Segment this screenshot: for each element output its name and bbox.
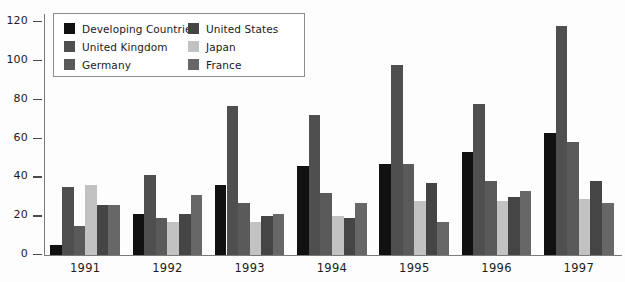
x-axis-label-1991: 1991 bbox=[44, 261, 126, 275]
y-axis-tick-label: 20 bbox=[14, 208, 28, 221]
bar bbox=[473, 104, 485, 255]
y-axis-tick-label: 60 bbox=[14, 131, 28, 144]
bar bbox=[332, 216, 344, 255]
legend-swatch-icon bbox=[188, 59, 199, 70]
y-axis-tick-label: 80 bbox=[14, 92, 28, 105]
bar bbox=[426, 183, 438, 255]
bar-group-1997 bbox=[538, 8, 620, 255]
bar bbox=[97, 205, 109, 255]
legend-item[interactable]: Developing Countries bbox=[64, 20, 197, 37]
bar bbox=[250, 222, 262, 255]
y-axis-tick-label: 120 bbox=[6, 14, 28, 27]
y-axis-tick-mark bbox=[33, 176, 42, 177]
legend-item[interactable]: Japan bbox=[188, 38, 278, 55]
x-axis-label-1993: 1993 bbox=[209, 261, 291, 275]
bar bbox=[227, 106, 239, 256]
legend-swatch-icon bbox=[188, 41, 199, 52]
bar bbox=[567, 142, 579, 255]
bar bbox=[215, 185, 227, 255]
legend-label: Japan bbox=[206, 41, 236, 53]
bar bbox=[579, 199, 591, 255]
x-axis-label-1992: 1992 bbox=[126, 261, 208, 275]
y-axis-tick-mark bbox=[33, 21, 42, 22]
y-axis-tick-label: 40 bbox=[14, 169, 28, 182]
y-axis-tick-mark bbox=[33, 99, 42, 100]
legend-item[interactable]: France bbox=[188, 56, 278, 73]
bar bbox=[261, 216, 273, 255]
bar bbox=[403, 164, 415, 255]
bar bbox=[179, 214, 191, 255]
x-axis-label-1996: 1996 bbox=[455, 261, 537, 275]
bar bbox=[133, 214, 145, 255]
bar bbox=[85, 185, 97, 255]
bar bbox=[556, 26, 568, 255]
bar bbox=[238, 203, 250, 255]
bar bbox=[167, 222, 179, 255]
bar bbox=[62, 187, 74, 255]
bar bbox=[485, 181, 497, 255]
bar bbox=[379, 164, 391, 255]
y-axis-tick-mark bbox=[33, 215, 42, 216]
x-axis-label-1994: 1994 bbox=[291, 261, 373, 275]
bar bbox=[74, 226, 86, 255]
legend-item[interactable]: United States bbox=[188, 20, 278, 37]
legend-swatch-icon bbox=[188, 23, 199, 34]
bar bbox=[391, 65, 403, 255]
bar bbox=[297, 166, 309, 255]
legend-swatch-icon bbox=[64, 41, 75, 52]
bar bbox=[191, 195, 203, 255]
legend-column-left: Developing CountriesUnited KingdomGerman… bbox=[64, 20, 197, 74]
x-axis-label-1997: 1997 bbox=[538, 261, 620, 275]
y-axis-tick-mark bbox=[33, 60, 42, 61]
y-axis-tick-label: 0 bbox=[21, 247, 28, 260]
legend-label: United States bbox=[206, 23, 278, 35]
bar bbox=[462, 152, 474, 255]
bar bbox=[414, 201, 426, 255]
bar-group-1995 bbox=[373, 8, 455, 255]
bar bbox=[273, 214, 285, 255]
bar bbox=[520, 191, 532, 255]
bar bbox=[602, 203, 614, 255]
x-axis-label-1995: 1995 bbox=[373, 261, 455, 275]
bar-group-1996 bbox=[455, 8, 537, 255]
bar bbox=[544, 133, 556, 255]
legend-label: Germany bbox=[82, 59, 131, 71]
bar bbox=[320, 193, 332, 255]
bar bbox=[590, 181, 602, 255]
legend-label: United Kingdom bbox=[82, 41, 168, 53]
legend-swatch-icon bbox=[64, 23, 75, 34]
bar bbox=[355, 203, 367, 255]
y-axis-tick-mark bbox=[33, 254, 42, 255]
bar bbox=[50, 245, 62, 255]
bar bbox=[309, 115, 321, 255]
bar bbox=[508, 197, 520, 255]
legend: Developing CountriesUnited KingdomGerman… bbox=[53, 13, 305, 77]
x-axis-line bbox=[44, 255, 622, 256]
legend-label: France bbox=[206, 59, 242, 71]
legend-swatch-icon bbox=[64, 59, 75, 70]
legend-label: Developing Countries bbox=[82, 23, 197, 35]
bar bbox=[144, 175, 156, 255]
legend-item[interactable]: Germany bbox=[64, 56, 197, 73]
bar bbox=[108, 205, 120, 255]
legend-item[interactable]: United Kingdom bbox=[64, 38, 197, 55]
bar bbox=[437, 222, 449, 255]
y-axis-tick-mark bbox=[33, 138, 42, 139]
bar bbox=[497, 201, 509, 255]
bar bbox=[344, 218, 356, 255]
y-axis-tick-label: 100 bbox=[6, 53, 28, 66]
bar bbox=[156, 218, 168, 255]
legend-column-right: United StatesJapanFrance bbox=[188, 20, 278, 74]
bar-chart: 020406080100120 199119921993199419951996… bbox=[0, 0, 625, 282]
